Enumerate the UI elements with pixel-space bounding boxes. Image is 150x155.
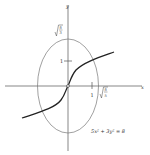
- svg-text:5: 5: [105, 94, 108, 98]
- x-intercept-label: 8 5: [100, 87, 108, 98]
- x-axis-label: x: [141, 84, 144, 90]
- svg-text:3: 3: [60, 31, 63, 35]
- svg-text:8: 8: [105, 88, 108, 92]
- y-intercept-label: 8 3: [55, 25, 63, 36]
- origin-point: [67, 85, 70, 88]
- y-tick-1-label: 1: [60, 58, 63, 64]
- x-tick-1-label: 1: [91, 92, 94, 98]
- equation-label: 5x² + 3y² = 8: [91, 128, 125, 135]
- graph-figure: y x 1 1 8 3 8 5 5x² + 3y² = 8: [0, 0, 150, 155]
- svg-text:8: 8: [60, 26, 63, 30]
- y-axis-label: y: [65, 3, 69, 10]
